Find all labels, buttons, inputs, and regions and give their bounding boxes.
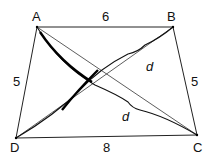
diagonal-label-bd: d [146,60,153,73]
trapezoid-figure [0,0,210,163]
vertex-label-d: D [10,141,19,154]
side-label-bc: 5 [191,75,198,88]
diagonal-bd [16,27,173,138]
brace-ac-thick [40,32,92,82]
brace-bd-thick [62,70,98,110]
trapezoid-outline [16,27,197,138]
diagonal-ac [37,27,197,135]
side-label-ab: 6 [102,10,109,23]
vertex-label-b: B [167,10,176,23]
side-label-ad: 5 [13,75,20,88]
vertex-label-a: A [32,10,41,23]
side-label-dc: 8 [103,141,110,154]
diagonal-label-ac: d [122,110,129,123]
vertex-label-c: C [193,141,202,154]
